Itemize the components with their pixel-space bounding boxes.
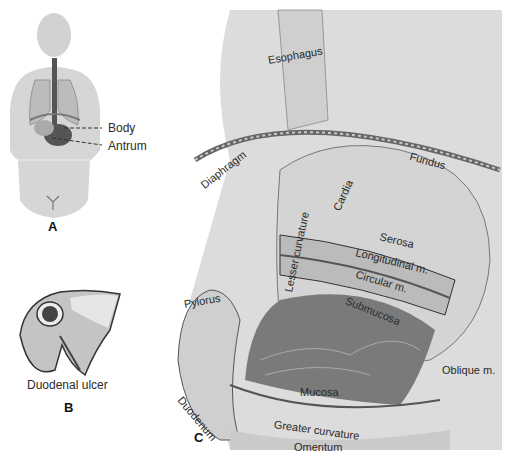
- label-mucosa: Mucosa: [300, 386, 339, 398]
- caption-duodenal-ulcer: Duodenal ulcer: [27, 378, 108, 392]
- label-oblique-m: Oblique m.: [442, 364, 495, 376]
- panel-letter-b: B: [64, 400, 73, 415]
- duodenal-ulcer-illustration: [0, 270, 170, 390]
- label-antrum: Antrum: [108, 139, 147, 153]
- panel-b: Duodenal ulcer B: [0, 270, 170, 420]
- panel-c: Esophagus Diaphragm Cardia Fundus Lesser…: [170, 0, 507, 462]
- label-omentum: Omentum: [294, 441, 342, 453]
- panel-a: Body Antrum A: [0, 0, 170, 240]
- panel-letter-c: C: [194, 430, 203, 445]
- body-silhouette-illustration: [0, 0, 170, 240]
- label-body: Body: [108, 121, 135, 135]
- panel-letter-a: A: [48, 219, 57, 234]
